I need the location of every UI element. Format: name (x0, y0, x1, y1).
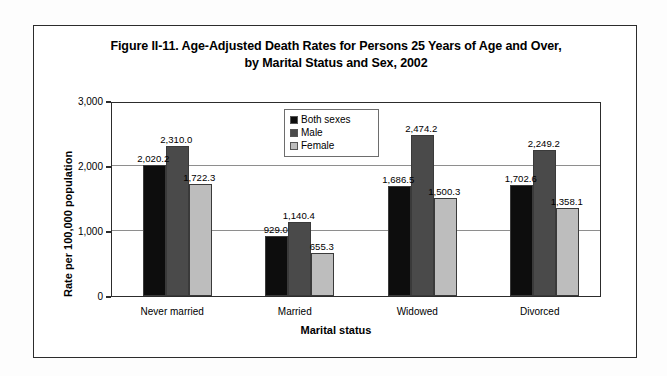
bar (510, 185, 533, 296)
legend-item: Male (290, 126, 374, 139)
bar-value-label: 2,474.2 (398, 124, 444, 134)
x-axis-category-label: Widowed (356, 306, 479, 317)
y-axis-tick-label: 3,000 (59, 97, 103, 107)
bar-value-label: 2,249.2 (521, 139, 567, 149)
bar-value-label: 2,020.2 (130, 154, 176, 164)
legend-swatch-icon (290, 142, 298, 150)
bar (189, 184, 212, 296)
x-axis-title: Marital status (34, 324, 638, 336)
bar-value-label: 1,358.1 (544, 197, 590, 207)
y-axis-tick-label: 2,000 (59, 162, 103, 172)
bar (311, 253, 334, 296)
bar-value-label: 655.3 (299, 242, 345, 252)
bar (533, 150, 556, 296)
legend-label: Both sexes (301, 114, 350, 125)
x-axis-category-label: Divorced (479, 306, 602, 317)
bar-value-label: 1,702.6 (498, 174, 544, 184)
legend-label: Female (301, 140, 334, 151)
plot-wrapper: Rate per 100,000 population 01,0002,0003… (34, 26, 638, 359)
bar-value-label: 1,722.3 (176, 173, 222, 183)
bar-value-label: 1,686.5 (375, 175, 421, 185)
bar-value-label: 1,500.3 (421, 187, 467, 197)
y-axis-tick-label: 1,000 (59, 227, 103, 237)
bar (411, 135, 434, 296)
bar (166, 146, 189, 296)
bar (143, 165, 166, 296)
legend-item: Female (290, 139, 374, 152)
bar-group (143, 101, 212, 296)
bar-value-label: 929.0 (253, 225, 299, 235)
bar (388, 186, 411, 296)
chart-legend: Both sexesMaleFemale (284, 109, 379, 157)
bar (265, 236, 288, 296)
legend-swatch-icon (290, 116, 298, 124)
y-axis-tick-label: 0 (59, 292, 103, 302)
bar (434, 198, 457, 296)
figure-page: Figure II-11. Age-Adjusted Death Rates f… (0, 0, 667, 376)
legend-item: Both sexes (290, 113, 374, 126)
figure-frame: Figure II-11. Age-Adjusted Death Rates f… (33, 25, 637, 358)
x-axis-category-label: Married (234, 306, 357, 317)
legend-swatch-icon (290, 129, 298, 137)
x-axis-category-label: Never married (111, 306, 234, 317)
bar (556, 208, 579, 296)
bar-value-label: 1,140.4 (276, 211, 322, 221)
legend-label: Male (301, 127, 323, 138)
y-axis-title: Rate per 100,000 population (62, 151, 74, 297)
bar-value-label: 2,310.0 (153, 135, 199, 145)
